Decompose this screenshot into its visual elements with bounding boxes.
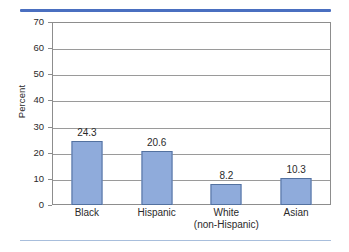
top-divider-rule [20, 9, 331, 12]
x-category-primary: Black [75, 207, 99, 218]
bar[interactable] [71, 141, 102, 205]
y-axis-ticks: 010203040506070 [0, 22, 52, 205]
y-tick-label: 20 [33, 148, 44, 158]
y-tick-label: 50 [33, 69, 44, 79]
y-tick-label: 40 [33, 95, 44, 105]
y-tick-label: 0 [39, 200, 44, 210]
bar[interactable] [141, 151, 172, 205]
x-axis-category-label: Hispanic [122, 207, 192, 219]
y-tick-label: 30 [33, 122, 44, 132]
bar-slot: 20.6 [122, 22, 192, 205]
bar-slot: 8.2 [192, 22, 262, 205]
x-category-primary: White [214, 207, 240, 218]
x-category-primary: Hispanic [137, 207, 175, 218]
bar-value-label: 20.6 [147, 138, 166, 148]
y-tick-label: 70 [33, 17, 44, 27]
x-axis-category-label: White(non-Hispanic) [192, 207, 262, 231]
y-tick-label: 10 [33, 174, 44, 184]
bar-value-label: 24.3 [77, 128, 96, 138]
bottom-divider-rule [20, 240, 331, 241]
x-category-primary: Asian [284, 207, 309, 218]
bar-value-label: 10.3 [286, 165, 305, 175]
bar[interactable] [211, 184, 242, 205]
bars-layer: 24.320.68.210.3 [52, 22, 331, 205]
y-tick-mark [48, 205, 52, 206]
bar-chart-figure: Percent 010203040506070 24.320.68.210.3 … [0, 0, 349, 252]
x-axis-category-label: Black [52, 207, 122, 219]
bar-slot: 10.3 [261, 22, 331, 205]
bar[interactable] [281, 178, 312, 205]
x-category-secondary: (non-Hispanic) [192, 219, 262, 231]
bar-value-label: 8.2 [219, 171, 233, 181]
x-axis-category-label: Asian [261, 207, 331, 219]
y-tick-label: 60 [33, 43, 44, 53]
bar-slot: 24.3 [52, 22, 122, 205]
x-axis-labels: BlackHispanicWhite(non-Hispanic)Asian [52, 207, 331, 241]
